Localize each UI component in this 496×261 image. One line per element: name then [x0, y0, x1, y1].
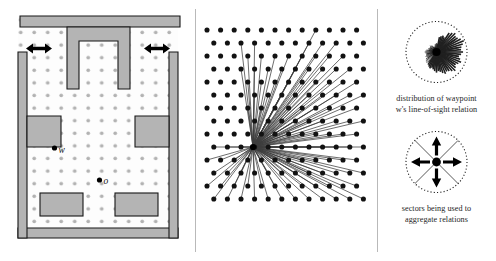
los-node-dot [279, 66, 284, 71]
los-node-dot [279, 196, 284, 201]
sector-caption-line-2: aggregate relations [377, 215, 496, 226]
los-node-dot [218, 183, 223, 188]
los-node-dot [361, 66, 366, 71]
los-node-dot [225, 92, 230, 97]
los-node-dot [204, 53, 209, 58]
los-node-dot [354, 105, 359, 110]
los-node-dot [245, 183, 250, 188]
map-waypoint-marker [52, 145, 57, 150]
los-node-dot [272, 105, 277, 110]
los-node-dot [218, 131, 223, 136]
los-node-dot [347, 196, 352, 201]
los-node-dot [279, 118, 284, 123]
line-of-sight-svg [196, 0, 377, 261]
los-node-dot [272, 79, 277, 84]
los-node-dot [334, 196, 339, 201]
los-node-dot [259, 157, 264, 162]
los-center-node [250, 144, 256, 150]
los-node-dot [320, 196, 325, 201]
los-node-dot [347, 118, 352, 123]
los-node-dot [286, 131, 291, 136]
los-node-dot [306, 144, 311, 149]
los-node-dot [225, 66, 230, 71]
los-node-dot [211, 118, 216, 123]
los-node-dot [225, 144, 230, 149]
los-node-dot [232, 79, 237, 84]
los-node-dot [232, 27, 237, 32]
los-node-dot [327, 53, 332, 58]
los-node-dot [320, 40, 325, 45]
los-node-dot [293, 144, 298, 149]
los-node-dot [361, 40, 366, 45]
los-node-dot [340, 157, 345, 162]
los-node-dot [320, 144, 325, 149]
los-node-dot [286, 105, 291, 110]
los-node-dot [266, 196, 271, 201]
los-node-dot [211, 66, 216, 71]
los-node-dot [225, 40, 230, 45]
los-node-dot [238, 92, 243, 97]
los-node-dot [279, 92, 284, 97]
los-node-dot [306, 118, 311, 123]
los-node-dot [354, 157, 359, 162]
los-node-dot [327, 105, 332, 110]
los-node-dot [225, 196, 230, 201]
panel-environment-map: w o [0, 0, 196, 261]
los-node-dot [266, 118, 271, 123]
los-node-dot [252, 170, 257, 175]
rose-wedges [425, 33, 464, 74]
map-object-marker [97, 177, 102, 182]
los-node-dot [204, 131, 209, 136]
los-node-dot [300, 27, 305, 32]
sector-arrow-right [443, 157, 462, 166]
sector-diagram-svg [377, 118, 496, 210]
los-node-dot [334, 144, 339, 149]
los-node-dot [211, 196, 216, 201]
los-node-dot [340, 27, 345, 32]
los-node-dot [204, 105, 209, 110]
los-node-dot [272, 157, 277, 162]
los-node-dot [272, 131, 277, 136]
sector-arrow-down [432, 169, 441, 188]
los-node-dot [272, 27, 277, 32]
los-node-dot [218, 105, 223, 110]
los-node-dot [218, 157, 223, 162]
rose-caption-line-1: distribution of waypoint [377, 94, 496, 105]
los-node-dot [245, 105, 250, 110]
los-node-dot [204, 79, 209, 84]
los-node-dot [259, 53, 264, 58]
los-node-dot [300, 79, 305, 84]
los-node-dot [327, 157, 332, 162]
los-node-dot [252, 66, 257, 71]
los-node-dot [340, 79, 345, 84]
los-node-dot [252, 118, 257, 123]
los-node-dot [361, 118, 366, 123]
los-node-dot [232, 183, 237, 188]
los-node-dot [232, 157, 237, 162]
los-node-dot [286, 79, 291, 84]
los-node-dot [300, 53, 305, 58]
los-node-dot [245, 53, 250, 58]
los-node-dot [245, 131, 250, 136]
los-node-dot [211, 92, 216, 97]
los-node-dot [320, 66, 325, 71]
los-node-dot [266, 40, 271, 45]
los-node-dot [361, 144, 366, 149]
los-node-dot [306, 66, 311, 71]
los-node-dot [354, 27, 359, 32]
los-node-dot [238, 66, 243, 71]
los-node-dot [238, 170, 243, 175]
los-node-dot [218, 79, 223, 84]
los-node-dot [306, 170, 311, 175]
los-node-dot [232, 131, 237, 136]
environment-map-svg: w o [0, 0, 196, 261]
los-node-dot [354, 131, 359, 136]
los-node-dot [327, 79, 332, 84]
map-inner-block-right [135, 116, 169, 147]
los-node-dot [340, 53, 345, 58]
sector-caption: sectors being used to aggregate relation… [377, 204, 496, 225]
los-node-dot [259, 79, 264, 84]
los-node-dot [354, 183, 359, 188]
los-node-dot [232, 53, 237, 58]
los-node-dot [279, 170, 284, 175]
